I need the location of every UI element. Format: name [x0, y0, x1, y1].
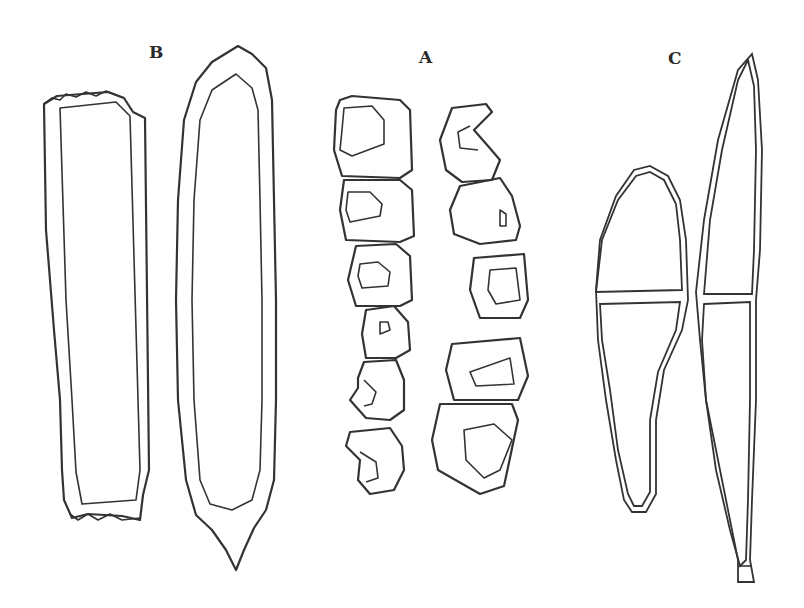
spore-b-rectangular: [44, 91, 149, 520]
spore-c-tapering: [696, 54, 762, 582]
panel-a: [334, 96, 528, 494]
drawing-canvas: [0, 0, 804, 608]
panel-b: [44, 46, 276, 570]
spore-b-fusiform: [176, 46, 276, 570]
cell-chain-a-left: [334, 96, 414, 494]
spore-c-club: [596, 166, 688, 512]
cell-chain-a-right: [432, 104, 528, 494]
scientific-illustration: B A C: [0, 0, 804, 608]
panel-c: [596, 54, 762, 582]
